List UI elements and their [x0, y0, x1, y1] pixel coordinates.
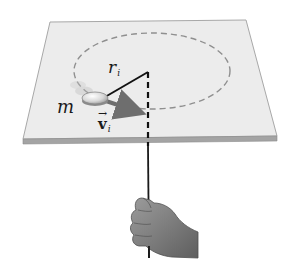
radius-symbol: r [108, 57, 116, 77]
vector-arrow-icon: → [98, 108, 107, 119]
table-surface [23, 20, 277, 139]
hand-icon [130, 198, 198, 258]
puck [82, 92, 108, 106]
radius-subscript: i [117, 68, 120, 78]
mass-label: m [57, 98, 74, 116]
table [23, 20, 277, 144]
velocity-label: →vi [98, 117, 111, 132]
velocity-subscript: i [108, 124, 111, 134]
radius-label: ri [108, 59, 120, 76]
physics-diagram [0, 0, 295, 271]
diagram-canvas: ri m →vi [0, 0, 295, 271]
